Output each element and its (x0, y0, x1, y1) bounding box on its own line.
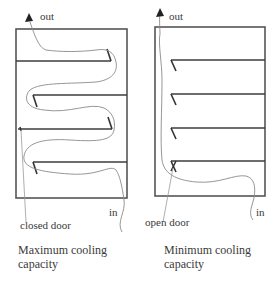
right-out-arrow-icon (156, 8, 164, 17)
left-caption-line2: capacity (18, 257, 107, 271)
left-door-label: closed door (20, 220, 71, 231)
right-door-label: open door (145, 217, 189, 228)
right-caption-line2: capacity (164, 257, 251, 271)
left-out-arrow-icon (25, 13, 33, 22)
left-door-leader (21, 130, 26, 222)
right-baffle-3-door (171, 128, 176, 139)
right-airflow-path (159, 12, 254, 220)
left-baffle-3-door (108, 117, 112, 129)
left-out-label: out (40, 11, 54, 22)
right-in-label: in (256, 207, 265, 218)
right-caption-line1: Minimum cooling (164, 243, 251, 257)
right-caption: Minimum cooling capacity (164, 243, 251, 271)
right-door-leader (163, 168, 173, 222)
left-baffle-2-door (33, 95, 37, 107)
right-out-label: out (169, 11, 183, 22)
left-caption: Maximum cooling capacity (18, 243, 107, 271)
left-panel (16, 13, 127, 232)
right-baffle-1-door (171, 60, 176, 71)
left-in-label: in (109, 207, 118, 218)
right-panel (155, 8, 265, 222)
right-baffle-2-door (171, 94, 176, 105)
left-caption-line1: Maximum cooling (18, 243, 107, 257)
